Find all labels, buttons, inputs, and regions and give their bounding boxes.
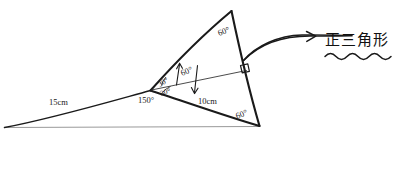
label-angle-apex-60: 60° [216,24,231,37]
label-angle-bottom-right-60: 60° [234,107,249,121]
label-15cm: 15cm [49,97,68,107]
annotation-text-equilateral-triangle: 正三角形 [325,31,389,49]
side-15cm-line [5,91,151,128]
label-10cm: 10cm [198,96,217,106]
baseline-faint [5,127,259,128]
angle-arrow-down [191,66,198,94]
geometry-figure: 15cm 10cm 150° 30° 30° 60° 60° 60° 正三角形 [0,0,397,187]
figure-canvas: 15cm 10cm 150° 30° 30° 60° 60° 60° 正三角形 [0,0,397,187]
wavy-underline [325,54,391,60]
label-angle-150: 150° [138,95,154,105]
